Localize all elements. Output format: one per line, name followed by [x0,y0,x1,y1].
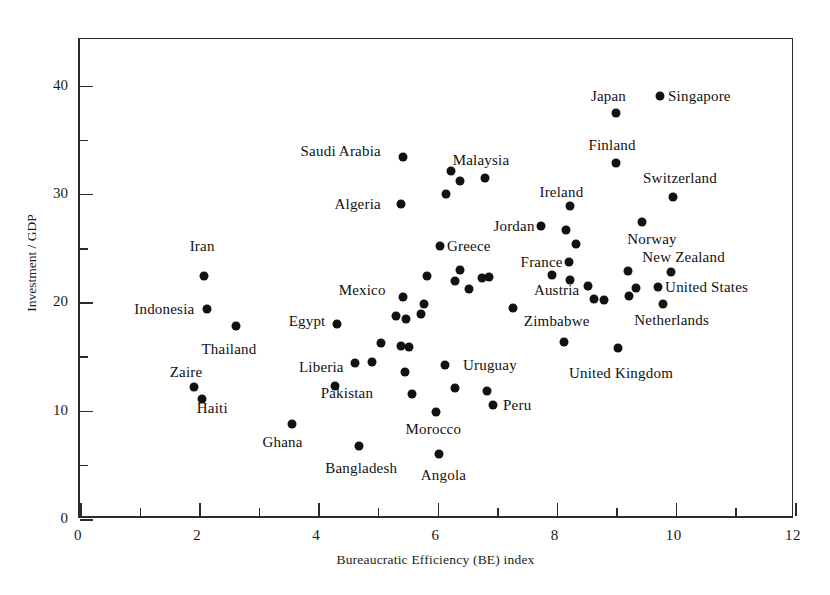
y-axis-title: Investment / GDP [24,188,40,338]
point-label-united-kingdom: United Kingdom [569,365,673,380]
data-point [456,176,465,185]
point-label-pakistan: Pakistan [321,386,373,401]
point-label-peru: Peru [503,398,531,413]
data-point-netherlands [658,300,667,309]
data-point [416,310,425,319]
data-point [442,189,451,198]
x-tick-minor [140,508,142,516]
x-tick-label: 4 [312,527,320,544]
point-label-angola: Angola [421,467,466,482]
x-tick-major [80,503,82,516]
y-tick-label: 10 [53,401,68,418]
data-point [485,273,494,282]
data-point-united-states [653,283,662,292]
point-label-iran: Iran [190,238,215,253]
data-point-norway [637,218,646,227]
data-point [631,284,640,293]
data-point-finland [612,158,621,167]
data-point-singapore [655,92,664,101]
y-tick-label: 40 [53,76,68,93]
y-tick-major [80,86,93,88]
point-label-morocco: Morocco [406,422,462,437]
point-label-finland: Finland [588,138,635,153]
y-tick-label: 0 [61,510,69,527]
y-tick-major [80,302,93,304]
data-point [625,291,634,300]
x-tick-minor [259,508,261,516]
x-axis-title: Bureaucratic Efficiency (BE) index [78,552,793,568]
data-point-angola [435,449,444,458]
data-point-thailand [232,322,241,331]
data-point [589,295,598,304]
data-point-peru [482,387,491,396]
point-label-japan: Japan [591,89,626,104]
point-label-saudi-arabia: Saudi Arabia [301,143,381,158]
data-point [509,303,518,312]
data-point-switzerland [668,193,677,202]
data-point [584,282,593,291]
y-tick-minor [80,356,88,358]
point-label-ghana: Ghana [263,435,303,450]
data-point [440,361,449,370]
point-label-greece: Greece [447,238,491,253]
data-point-ireland [566,201,575,210]
data-point [624,266,633,275]
data-point [561,225,570,234]
point-label-switzerland: Switzerland [643,170,717,185]
x-tick-label: 12 [785,527,801,544]
point-label-malaysia: Malaysia [453,153,510,168]
x-tick-label: 6 [432,527,440,544]
x-tick-major [557,503,559,516]
x-tick-label: 0 [74,527,82,544]
point-label-norway: Norway [627,232,677,247]
point-label-jordan: Jordan [493,219,534,234]
point-label-algeria: Algeria [335,196,381,211]
x-tick-major [676,503,678,516]
point-label-thailand: Thailand [201,341,256,356]
data-point [547,271,556,280]
data-point [391,312,400,321]
data-point-malaysia [481,173,490,182]
data-point-zimbabwe [560,338,569,347]
point-label-liberia: Liberia [299,360,344,375]
data-point [451,276,460,285]
scatter-plot-figure: IranIndonesiaThailandZaireHaitiGhanaLibe… [0,0,830,595]
x-tick-minor [497,508,499,516]
data-point [401,314,410,323]
data-point-algeria [396,199,405,208]
data-point [422,272,431,281]
data-point-uruguay [488,401,497,410]
x-tick-label: 8 [551,527,559,544]
data-point-iran [199,272,208,281]
data-point-japan [612,108,621,117]
y-tick-minor [80,465,88,467]
data-point-indonesia [202,304,211,313]
data-point-greece [436,241,445,250]
point-label-egypt: Egypt [289,313,326,328]
plot-area: IranIndonesiaThailandZaireHaitiGhanaLibe… [78,38,793,518]
y-tick-major [80,519,93,521]
data-point [404,342,413,351]
x-tick-minor [378,508,380,516]
y-tick-major [80,411,93,413]
point-label-singapore: Singapore [668,89,731,104]
point-label-uruguay: Uruguay [463,358,517,373]
point-label-united-states: United States [665,280,748,295]
point-label-bangladesh: Bangladesh [325,461,397,476]
y-tick-label: 20 [53,293,68,310]
x-tick-major [318,503,320,516]
data-point [456,265,465,274]
data-point [367,357,376,366]
data-point-new-zealand [667,267,676,276]
y-tick-major [80,194,93,196]
point-label-zaire: Zaire [170,364,203,379]
data-point-jordan [536,222,545,231]
data-point-ghana [287,419,296,428]
y-tick-minor [80,140,88,142]
x-tick-major [438,503,440,516]
data-point [465,285,474,294]
point-label-austria: Austria [534,283,580,298]
data-point [420,300,429,309]
point-label-netherlands: Netherlands [634,312,709,327]
data-point [600,296,609,305]
